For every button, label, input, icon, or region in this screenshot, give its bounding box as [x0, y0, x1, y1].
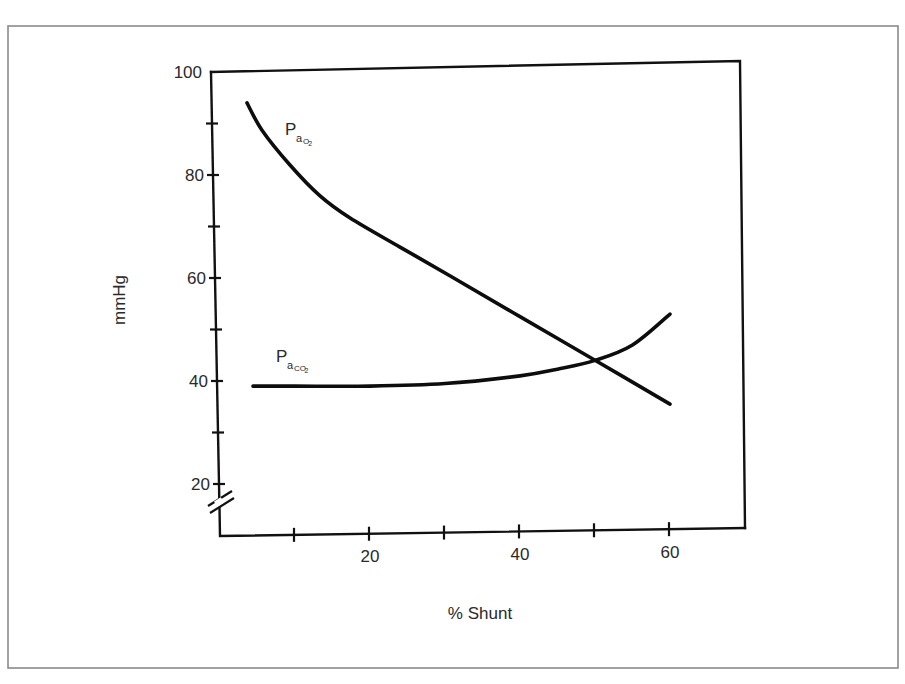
svg-text:P: P	[285, 120, 296, 139]
series-line-pao2	[247, 103, 670, 404]
y-tick-label: 80	[185, 166, 204, 185]
axis-break-icon	[208, 491, 234, 513]
series-label-pao2: PaO2	[285, 120, 312, 147]
series-labels: PaO2PaCO2	[276, 120, 312, 374]
svg-text:2: 2	[304, 367, 308, 374]
series-lines	[247, 103, 670, 404]
x-tick-label: 20	[361, 547, 380, 566]
figure-frame	[8, 26, 898, 668]
y-tick-label: 40	[189, 372, 208, 391]
y-axis-title: mmHg	[110, 275, 129, 325]
series-line-paco2	[253, 314, 670, 386]
chart-figure: 20406080100 204060 PaO2PaCO2 mmHg % Shun…	[0, 0, 905, 684]
y-tick-label: 60	[187, 269, 206, 288]
x-tick-label: 60	[661, 543, 680, 562]
svg-text:a: a	[287, 359, 294, 371]
x-tick-label: 40	[511, 545, 530, 564]
y-tick-label: 100	[174, 63, 202, 82]
y-tick-label: 20	[191, 475, 210, 494]
svg-text:P: P	[276, 347, 287, 366]
svg-text:a: a	[296, 132, 303, 144]
series-label-paco2: PaCO2	[276, 347, 308, 374]
x-axis-title: % Shunt	[448, 604, 513, 623]
line-chart: 20406080100 204060 PaO2PaCO2 mmHg % Shun…	[0, 0, 905, 684]
x-axis-line	[220, 508, 746, 536]
svg-text:2: 2	[308, 140, 312, 147]
